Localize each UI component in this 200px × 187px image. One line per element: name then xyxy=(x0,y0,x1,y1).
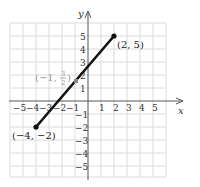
x-tick: 1 xyxy=(99,103,105,113)
y-tick: 3 xyxy=(80,58,86,68)
y-tick: −1 xyxy=(75,110,88,120)
y-tick-labels: 5 4 3 2 1 −1 −2 −3 −4 −5 xyxy=(75,32,89,172)
x-axis-label: x xyxy=(178,105,184,116)
x-tick: 2 xyxy=(113,103,119,113)
endpoint-label: (2, 5) xyxy=(117,39,144,50)
midpoint-marker xyxy=(74,79,78,83)
y-tick: 4 xyxy=(80,45,86,55)
y-tick: −2 xyxy=(75,123,88,133)
y-tick: 1 xyxy=(80,84,86,94)
midpoint-label-open: (−1, xyxy=(35,72,57,83)
midpoint-label: (−1, 3 2 ) xyxy=(35,70,71,87)
x-tick: 5 xyxy=(152,103,158,113)
axes xyxy=(9,12,182,180)
y-axis-label: y xyxy=(77,8,84,19)
x-tick: 4 xyxy=(139,103,145,113)
endpoint-marker xyxy=(33,124,38,129)
midpoint-label-close: ) xyxy=(67,72,71,83)
y-tick: −3 xyxy=(75,136,89,146)
x-tick: 3 xyxy=(126,103,132,113)
y-tick: −4 xyxy=(75,149,89,159)
y-tick: 5 xyxy=(80,32,86,42)
endpoint-marker xyxy=(111,33,116,38)
y-tick: −5 xyxy=(75,162,89,172)
coordinate-plane: x y −5 −4 −3 −2 −1 1 2 3 4 5 5 4 3 2 1 −… xyxy=(0,0,200,187)
x-tick: −4 xyxy=(26,103,40,113)
endpoint-label: (−4, −2) xyxy=(12,130,56,141)
midpoint-fraction-numerator: 3 xyxy=(61,70,65,78)
midpoint-fraction-denominator: 2 xyxy=(61,79,65,87)
x-tick: −5 xyxy=(13,103,27,113)
